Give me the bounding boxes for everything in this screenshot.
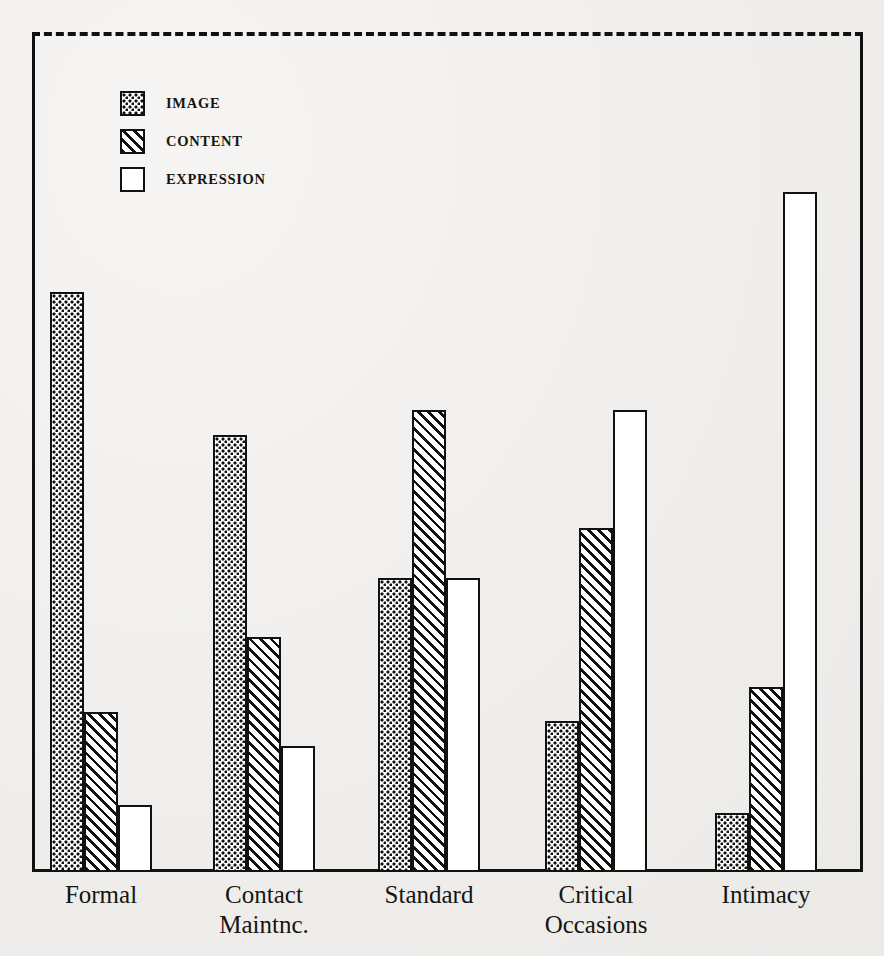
bar-image-standard[interactable] [378, 578, 412, 872]
x-axis-label-standard: Standard [350, 880, 508, 910]
bar-chart-figure: IMAGE CONTENT EXPRESSION FormalContact M… [0, 0, 884, 956]
bar-image-formal[interactable] [50, 292, 84, 872]
legend-label-content: CONTENT [166, 133, 243, 150]
chart-legend: IMAGE CONTENT EXPRESSION [120, 84, 266, 198]
dotted-swatch-icon [120, 91, 145, 116]
bar-expression-critical-occasions[interactable] [613, 410, 647, 872]
bar-image-contact-maintnc.[interactable] [213, 435, 247, 872]
legend-item-expression[interactable]: EXPRESSION [120, 160, 266, 198]
x-axis-category-labels: FormalContact Maintnc.StandardCritical O… [0, 880, 884, 956]
bar-image-intimacy[interactable] [715, 813, 749, 872]
bar-image-critical-occasions[interactable] [545, 721, 579, 872]
legend-label-expression: EXPRESSION [166, 171, 266, 188]
bar-expression-contact-maintnc.[interactable] [281, 746, 315, 872]
x-axis-label-contact-maintnc.: Contact Maintnc. [185, 880, 343, 940]
bar-expression-formal[interactable] [118, 805, 152, 872]
x-axis-label-intimacy: Intimacy [687, 880, 845, 910]
bar-content-intimacy[interactable] [749, 687, 783, 872]
hatched-swatch-icon [120, 129, 145, 154]
empty-swatch-icon [120, 167, 145, 192]
bar-content-standard[interactable] [412, 410, 446, 872]
legend-item-content[interactable]: CONTENT [120, 122, 266, 160]
bar-content-critical-occasions[interactable] [579, 528, 613, 872]
bar-expression-standard[interactable] [446, 578, 480, 872]
x-axis-label-critical-occasions: Critical Occasions [517, 880, 675, 940]
legend-label-image: IMAGE [166, 95, 220, 112]
bar-expression-intimacy[interactable] [783, 192, 817, 872]
bar-content-formal[interactable] [84, 712, 118, 872]
legend-item-image[interactable]: IMAGE [120, 84, 266, 122]
bar-content-contact-maintnc.[interactable] [247, 637, 281, 872]
x-axis-label-formal: Formal [22, 880, 180, 910]
